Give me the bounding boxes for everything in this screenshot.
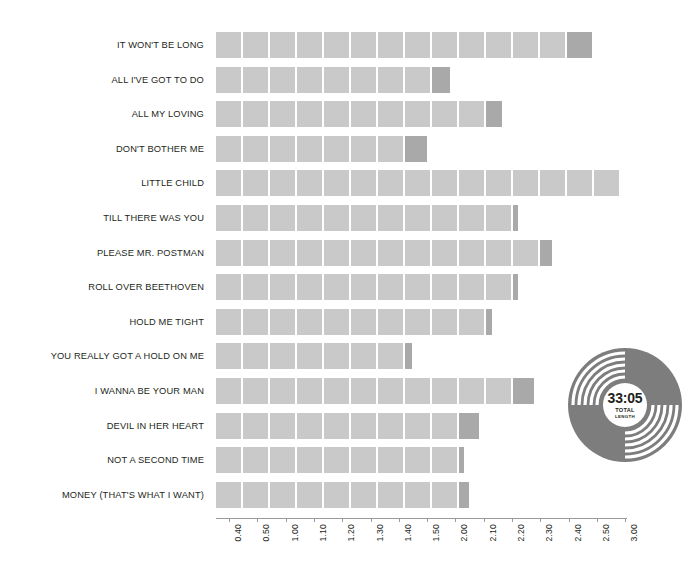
bar-segment [378,274,403,300]
bar-segment [324,413,349,439]
bar-segment [243,413,268,439]
bar-segment [459,101,484,127]
track-length-chart: IT WON'T BE LONGALL I'VE GOT TO DOALL MY… [0,0,690,569]
bar-segment [405,170,430,196]
chart-row: I WANNA BE YOUR MAN [216,374,625,408]
x-axis-tick-label: 2.00 [459,524,469,542]
x-axis-tick [512,518,513,522]
bar-segment [513,170,538,196]
bar-segment [243,309,268,335]
bar-segment [351,32,376,58]
track-label: ROLL OVER BEETHOVEN [0,270,216,304]
bar-segment [243,67,268,93]
bar-segment [405,274,430,300]
bar-segment-partial [513,205,518,231]
track-label: IT WON'T BE LONG [0,28,216,62]
bar-segment [324,447,349,473]
bar-segment [324,32,349,58]
bar-segment [297,205,322,231]
bar-segment [378,482,403,508]
bar-segment [297,32,322,58]
track-bar [216,67,450,93]
bar-segment [432,309,457,335]
bar-segment [324,378,349,404]
bar-segment [540,170,565,196]
bar-segment [459,309,484,335]
track-bar [216,413,479,439]
track-bar [216,274,518,300]
bar-segment-partial [459,447,464,473]
bar-segment [243,170,268,196]
bar-segment [405,67,430,93]
bar-segment [378,343,403,369]
x-axis-tick [484,518,485,522]
bar-segment [243,378,268,404]
bar-segment [405,101,430,127]
bar-segment [270,205,295,231]
x-axis-tick-label: 2.30 [544,524,554,542]
track-label: NOT A SECOND TIME [0,443,216,477]
chart-row: MONEY (THAT'S WHAT I WANT) [216,478,625,512]
x-axis-tick-label: 1.00 [290,524,300,542]
x-axis-tick-label: 2.20 [516,524,526,542]
bar-segment [351,343,376,369]
bar-segment-partial [405,343,412,369]
bar-segment [378,101,403,127]
bar-segment [459,240,484,266]
bar-segment [513,240,538,266]
bar-segment [405,205,430,231]
track-label: ALL I'VE GOT TO DO [0,63,216,97]
bar-segment-partial [486,101,502,127]
x-axis-tick [286,518,287,522]
bar-segment [459,274,484,300]
bar-segment [567,170,592,196]
bar-segment [351,136,376,162]
track-bar [216,240,552,266]
bar-segment-partial [459,482,469,508]
bar-segment [324,205,349,231]
x-axis-tick-label: 2.10 [488,524,498,542]
bar-segment [351,274,376,300]
bar-segment [324,136,349,162]
bar-segment [459,378,484,404]
bar-segment [405,482,430,508]
bar-segment [243,447,268,473]
bar-segment [243,240,268,266]
bar-segment [324,309,349,335]
x-axis-tick-label: 1.10 [318,524,328,542]
bar-segment [432,101,457,127]
chart-row: TILL THERE WAS YOU [216,201,625,235]
bar-segment [243,136,268,162]
bar-segment-partial [513,274,518,300]
bar-segment [459,32,484,58]
bar-segment [216,447,241,473]
bar-segment [216,343,241,369]
bar-segment [378,205,403,231]
track-bar [216,32,592,58]
bar-segment [324,274,349,300]
bar-segment [243,101,268,127]
bar-segment [594,170,619,196]
bar-segment-partial [513,378,534,404]
bar-segment [270,447,295,473]
track-label: TILL THERE WAS YOU [0,201,216,235]
x-axis-tick-label: 2.40 [573,524,583,542]
bar-segment [270,101,295,127]
track-bar [216,101,502,127]
chart-row: YOU REALLY GOT A HOLD ON ME [216,339,625,373]
track-label: PLEASE MR. POSTMAN [0,236,216,270]
bar-segment [297,170,322,196]
x-axis-tick [569,518,570,522]
track-label: YOU REALLY GOT A HOLD ON ME [0,339,216,373]
bar-segment [297,378,322,404]
bar-segment [270,378,295,404]
track-label: LITTLE CHILD [0,166,216,200]
chart-row: NOT A SECOND TIME [216,443,625,477]
bar-segment [324,67,349,93]
bar-segment [216,170,241,196]
bar-segment [270,240,295,266]
bar-segment [405,413,430,439]
bar-segment [378,32,403,58]
bar-segment [324,343,349,369]
vinyl-record-icon [566,346,684,464]
